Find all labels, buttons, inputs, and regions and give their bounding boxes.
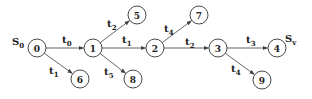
node-9: 9 bbox=[253, 71, 271, 89]
node-4: 4 bbox=[268, 39, 286, 57]
edge-label-1-8: t5 bbox=[104, 66, 114, 80]
edge-label-0-1: t0 bbox=[62, 34, 72, 48]
edge-label-1-5: t2 bbox=[107, 18, 117, 32]
node-8: 8 bbox=[124, 70, 142, 88]
node-label: 6 bbox=[77, 75, 83, 85]
node-label: 1 bbox=[90, 44, 96, 54]
node-label: 7 bbox=[196, 11, 202, 21]
node-3: 3 bbox=[209, 39, 227, 57]
edge-label-1-2: t1 bbox=[122, 34, 132, 48]
node-label: 0 bbox=[34, 44, 40, 54]
edge-label-3-9: t4 bbox=[231, 63, 241, 77]
node-6: 6 bbox=[71, 70, 89, 88]
edge-label-0-6: t1 bbox=[49, 65, 59, 79]
edge-label-3-4: t3 bbox=[246, 34, 256, 48]
edge-label-2-7: t4 bbox=[164, 23, 174, 37]
state-graph-diagram: 0123456789 t0t1t2t1t5t4t2t3t4S0Sv bbox=[0, 0, 312, 99]
node-label: 5 bbox=[134, 11, 140, 21]
node-5: 5 bbox=[128, 6, 146, 24]
start-state-label: S0 bbox=[12, 36, 24, 50]
node-label: 2 bbox=[152, 44, 158, 54]
node-label: 3 bbox=[215, 44, 221, 54]
node-0: 0 bbox=[28, 39, 46, 57]
node-label: 8 bbox=[130, 75, 136, 85]
end-state-label: Sv bbox=[285, 33, 297, 47]
node-1: 1 bbox=[84, 39, 102, 57]
node-7: 7 bbox=[190, 6, 208, 24]
node-label: 4 bbox=[274, 44, 280, 54]
node-label: 9 bbox=[259, 76, 265, 86]
node-2: 2 bbox=[146, 39, 164, 57]
